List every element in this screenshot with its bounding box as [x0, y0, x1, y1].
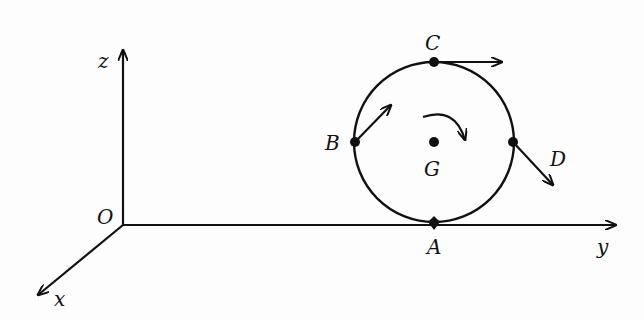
label-b: B	[324, 131, 340, 155]
label-g: G	[424, 157, 440, 181]
rotation-arrow-icon	[423, 114, 465, 140]
point-a	[428, 216, 440, 230]
label-a: A	[425, 235, 441, 259]
diagram-canvas: z O x y C B G D A	[0, 0, 644, 320]
label-y: y	[596, 235, 609, 259]
label-z: z	[97, 49, 109, 73]
center-point-g	[429, 137, 439, 147]
x-axis	[38, 225, 123, 295]
label-d: D	[549, 147, 566, 171]
label-c: C	[425, 31, 440, 55]
diagram-svg: z O x y C B G D A	[0, 0, 644, 320]
label-x: x	[54, 287, 65, 311]
label-origin: O	[97, 205, 113, 229]
velocity-arrow-d	[513, 142, 553, 185]
